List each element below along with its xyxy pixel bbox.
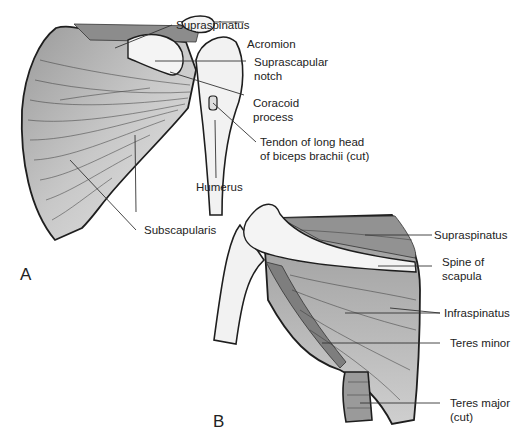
panel-label-b: B [213,412,224,432]
label-teres-major-1: Teres major [450,396,510,410]
label-tendon-1: Tendon of long head [260,135,364,149]
label-supraspinatus-a: Supraspinatus [176,18,250,32]
panel-b-drawing [214,204,420,424]
label-spine-of-scapula-2: scapula [442,269,482,283]
label-spine-of-scapula-1: Spine of [442,255,484,269]
label-teres-major-2: (cut) [450,410,473,424]
label-suprascapular-notch-2: notch [254,69,282,83]
panel-label-a: A [20,265,31,285]
label-suprascapular-notch-1: Suprascapular [254,55,328,69]
label-coracoid-2: process [253,110,293,124]
label-acromion: Acromion [247,37,296,51]
label-humerus: Humerus [196,180,243,194]
label-supraspinatus-b: Supraspinatus [434,228,508,242]
panel-a-drawing [22,16,243,240]
label-tendon-2: of biceps brachii (cut) [260,149,369,163]
label-teres-minor: Teres minor [450,336,510,350]
label-coracoid-1: Coracoid [253,96,299,110]
label-subscapularis: Subscapularis [144,223,216,237]
label-infraspinatus: Infraspinatus [444,306,510,320]
teres-major-muscle [343,372,372,422]
